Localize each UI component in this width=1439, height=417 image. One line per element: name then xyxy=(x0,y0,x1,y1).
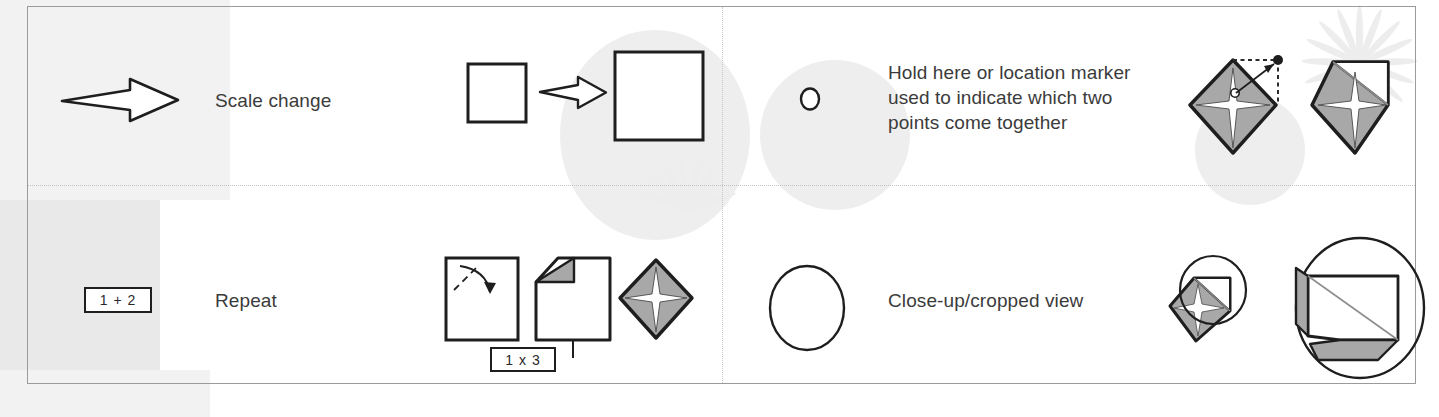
repeat-label: Repeat xyxy=(215,288,415,313)
scale-change-label: Scale change xyxy=(215,88,435,113)
close-up-label: Close-up/cropped view xyxy=(888,288,1168,313)
legend-page: Scale change Hold here or location marke… xyxy=(0,0,1439,417)
close-up-circle-icon xyxy=(762,258,857,358)
column-divider xyxy=(722,7,723,383)
repeat-tag-icon: 1 + 2 xyxy=(84,287,152,313)
repeat-count-tag: 1 x 3 xyxy=(490,347,556,372)
close-up-example-icon xyxy=(1158,236,1438,386)
hold-here-label: Hold here or location marker used to ind… xyxy=(888,60,1188,135)
hold-here-circle-icon xyxy=(798,84,828,114)
scale-change-example-icon xyxy=(460,50,710,160)
scale-change-arrow-icon xyxy=(60,70,190,130)
repeat-example-icon xyxy=(442,252,692,362)
hold-here-example-icon xyxy=(1178,48,1428,173)
